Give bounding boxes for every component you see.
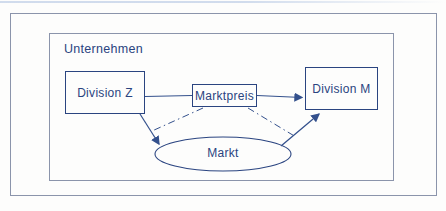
dashdot-marktpreis-left xyxy=(152,108,203,131)
markt-label: Markt xyxy=(158,146,288,160)
division-m-label: Division M xyxy=(312,82,370,96)
line-divisionz-to-marktpreis xyxy=(145,96,192,97)
node-marktpreis: Marktpreis xyxy=(192,84,257,107)
arrow-marktpreis-to-divisionm xyxy=(257,96,302,98)
node-division-m: Division M xyxy=(305,67,378,110)
division-z-label: Division Z xyxy=(77,86,133,100)
arrow-markt-to-divisionm xyxy=(281,114,319,146)
marktpreis-label: Marktpreis xyxy=(195,89,254,103)
transfer-pricing-diagram: Unternehmen Division Z Marktpreis Divisi… xyxy=(0,0,446,211)
node-division-z: Division Z xyxy=(65,71,145,114)
dashdot-marktpreis-right xyxy=(248,108,296,137)
